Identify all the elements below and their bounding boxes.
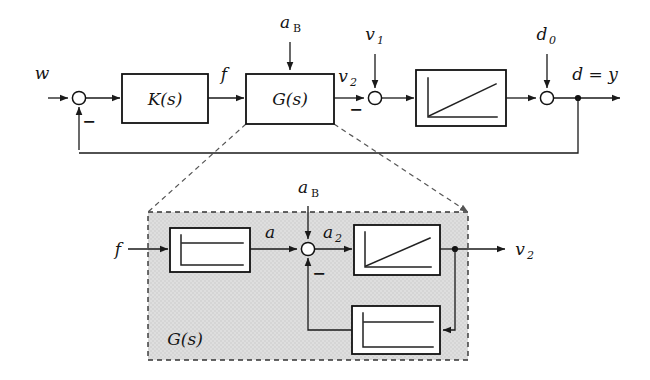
label-v2-detail: v 2 (515, 239, 534, 262)
svg-text:2: 2 (334, 232, 342, 245)
svg-text:a: a (298, 177, 308, 197)
diagram-canvas: w − K(s) f G(s) a B v 2 − v 1 d 0 (0, 0, 650, 380)
svg-text:a: a (280, 12, 290, 32)
label-f-detail: f (113, 239, 124, 259)
svg-text:B: B (293, 22, 301, 35)
svg-text:2: 2 (349, 76, 357, 89)
detail-panel-label: G(s) (167, 329, 203, 349)
sum-error-junction (72, 91, 85, 104)
label-aB-detail: a B (298, 177, 319, 200)
controller-block-label: K(s) (147, 89, 183, 109)
svg-text:d: d (537, 24, 548, 44)
svg-text:v: v (338, 66, 348, 86)
leader-line-left (148, 124, 246, 212)
svg-text:v: v (515, 239, 525, 259)
svg-text:a: a (323, 222, 333, 242)
label-minus-detail: − (312, 264, 325, 283)
label-aB-top: a B (280, 12, 301, 35)
label-d0: d 0 (537, 24, 556, 47)
svg-text:B: B (311, 187, 319, 200)
label-minus-error: − (82, 112, 95, 131)
expansion-leader-lines (148, 124, 468, 212)
label-minus-v1: − (349, 100, 362, 119)
label-output-d-equals-y: d = y (572, 64, 618, 84)
svg-text:v: v (365, 24, 375, 44)
block-diagram-figure: w − K(s) f G(s) a B v 2 − v 1 d 0 (0, 0, 650, 380)
sum-d0-junction (540, 91, 553, 104)
plant-block-label: G(s) (272, 89, 308, 109)
sum-v1-junction (368, 91, 381, 104)
top-level-group (48, 42, 620, 153)
label-w: w (35, 63, 50, 83)
leader-line-right (334, 124, 468, 212)
label-v2-top: v 2 (338, 66, 357, 89)
label-v1: v 1 (365, 24, 384, 47)
svg-text:1: 1 (377, 34, 384, 47)
detail-sum-junction (301, 242, 314, 255)
svg-text:2: 2 (526, 249, 534, 262)
label-f: f (219, 64, 230, 84)
svg-text:0: 0 (549, 34, 556, 47)
label-a: a (265, 222, 275, 242)
